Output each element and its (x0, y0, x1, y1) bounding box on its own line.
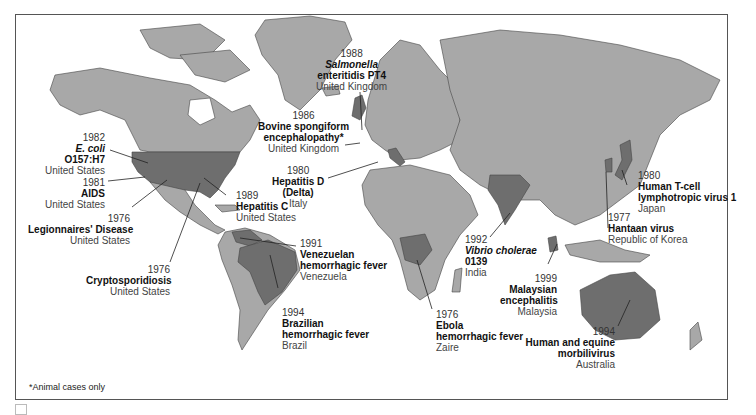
label-bse: 1986 Bovine spongiform encephalopathy* U… (258, 110, 349, 154)
label-salmonella: 1988 Salmonella enteritidis PT4 United K… (316, 48, 387, 92)
united-kingdom (352, 95, 366, 120)
label-brazilian-fever: 1994 Brazilian hemorrhagic fever Brazil (282, 307, 369, 351)
label-hepatitis-c: 1989 Hepatitis C United States (236, 190, 296, 223)
label-vibrio-cholerae: 1992 Vibrio cholerae 0139 India (465, 234, 537, 278)
label-ecoli: 1982 E. coli O157:H7 United States (45, 132, 105, 176)
figure-marker (15, 404, 27, 415)
label-hantaan: 1977 Hantaan virus Republic of Korea (608, 212, 688, 245)
label-legionnaires: 1976 Legionnaires' Disease United States (28, 213, 130, 246)
malaysia (548, 236, 558, 252)
korea (605, 158, 612, 172)
label-morbilivirus: 1994 Human and equine morbilivirus Austr… (520, 326, 615, 370)
footnote: *Animal cases only (29, 382, 105, 392)
label-malaysian-encephalitis: 1999 Malaysian encephalitis Malaysia (500, 273, 557, 317)
label-aids: 1981 AIDS United States (45, 177, 105, 210)
label-venezuelan-fever: 1991 Venezuelan hemorrhagic fever Venezu… (300, 238, 387, 282)
label-htlv: 1980 Human T-cell lymphotropic virus 1 J… (638, 170, 736, 214)
label-cryptosporidiosis: 1976 Cryptosporidiosis United States (86, 264, 170, 297)
